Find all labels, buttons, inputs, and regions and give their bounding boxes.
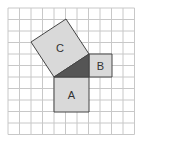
label-b: B: [97, 60, 104, 72]
pythagorean-diagram: C B A: [0, 0, 186, 143]
label-a: A: [68, 89, 76, 101]
label-c: C: [56, 42, 64, 54]
